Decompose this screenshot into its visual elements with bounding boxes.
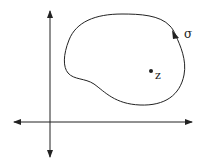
curve-sigma-label: σ	[184, 27, 192, 41]
orientation-arrow-icon	[172, 30, 179, 39]
point-z-dot	[149, 69, 153, 73]
contour-diagram: z σ	[0, 0, 204, 168]
closed-contour-curve	[64, 14, 184, 105]
point-z-label: z	[155, 69, 161, 82]
